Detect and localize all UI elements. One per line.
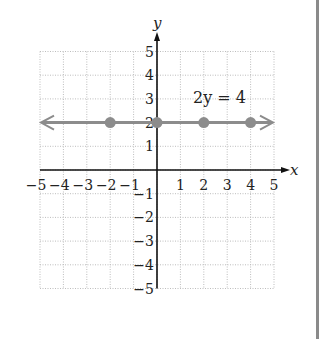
x-axis-label: x — [290, 161, 299, 179]
x-tick-label: 4 — [246, 177, 255, 193]
y-tick-label: 1 — [145, 138, 154, 154]
y-tick-label: −1 — [133, 186, 154, 202]
x-tick-label: 2 — [199, 177, 208, 193]
x-tick-label: 5 — [270, 177, 279, 193]
x-tick-label: −4 — [49, 177, 70, 193]
x-tick-label: −5 — [26, 177, 47, 193]
y-tick-label: −5 — [133, 281, 154, 297]
coordinate-plane: −5−4−3−2−112345−5−4−3−2−112345 2y = 4 x … — [0, 0, 321, 339]
data-point — [245, 117, 256, 128]
page-edge-bar — [316, 0, 319, 339]
data-point — [152, 117, 163, 128]
data-point — [198, 117, 209, 128]
y-tick-label: −2 — [133, 209, 154, 225]
axes — [40, 32, 290, 289]
y-tick-label: −4 — [133, 257, 154, 273]
equation-label: 2y = 4 — [193, 88, 246, 107]
x-tick-label: 3 — [223, 177, 232, 193]
line-series — [41, 116, 273, 130]
y-axis-label: y — [152, 14, 162, 32]
y-tick-label: 3 — [145, 91, 154, 107]
y-tick-label: 5 — [145, 44, 154, 60]
x-tick-label: 1 — [176, 177, 185, 193]
x-tick-label: −2 — [96, 177, 117, 193]
y-tick-label: 4 — [145, 67, 154, 83]
data-point — [105, 117, 116, 128]
x-axis-arrow-icon — [281, 167, 290, 173]
x-tick-label: −3 — [72, 177, 93, 193]
y-tick-label: −3 — [133, 233, 154, 249]
y-axis-arrow-icon — [154, 32, 160, 41]
